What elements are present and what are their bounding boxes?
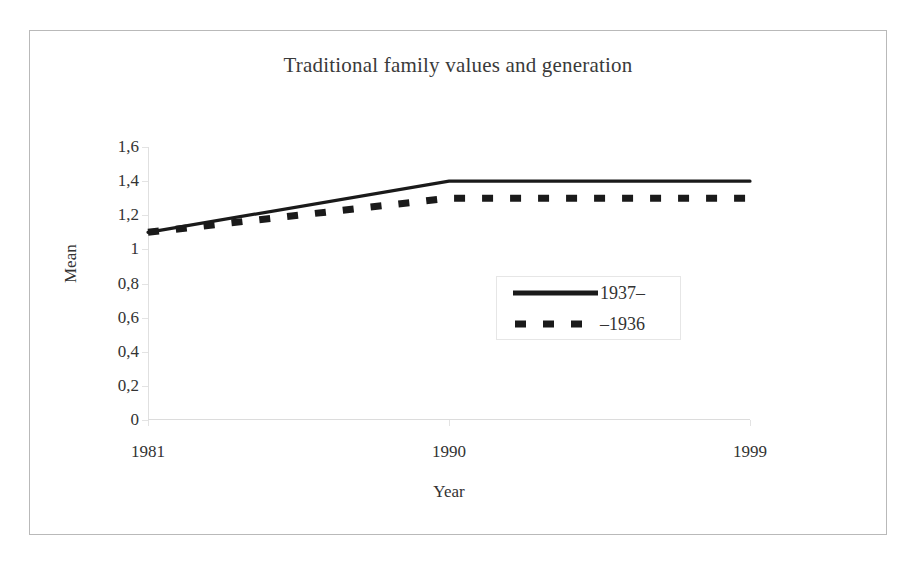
x-tick-label: 1999 — [733, 442, 767, 462]
y-tick-label: 0,4 — [118, 342, 139, 362]
y-tick-label: 0,6 — [118, 308, 139, 328]
y-tick-label: 0,2 — [118, 376, 139, 396]
legend-line-solid-icon — [513, 284, 598, 302]
x-tick-mark — [148, 420, 149, 426]
x-tick-label: 1981 — [131, 442, 165, 462]
x-tick-mark — [750, 420, 751, 426]
y-tick-label: 0,8 — [118, 274, 139, 294]
x-axis-title: Year — [148, 482, 750, 502]
series-line-1 — [148, 198, 750, 232]
x-tick-label: 1990 — [432, 442, 466, 462]
y-tick-label: 1,6 — [118, 137, 139, 157]
y-tick-label: 1,2 — [118, 205, 139, 225]
y-tick-label: 0 — [131, 410, 140, 430]
legend-label-1: –1936 — [600, 314, 645, 335]
y-tick-label: 1,4 — [118, 171, 139, 191]
legend-label-0: 1937– — [600, 283, 645, 304]
chart-legend: 1937– –1936 — [496, 276, 681, 340]
y-tick-label: 1 — [131, 239, 140, 259]
legend-item-0: 1937– — [497, 277, 680, 309]
legend-line-dashed-icon — [513, 315, 598, 333]
legend-item-1: –1936 — [497, 308, 680, 340]
y-axis-title: Mean — [61, 244, 81, 283]
chart-title: Traditional family values and generation — [29, 53, 887, 78]
chart-figure: Traditional family values and generation… — [0, 0, 918, 575]
x-tick-mark — [449, 420, 450, 426]
